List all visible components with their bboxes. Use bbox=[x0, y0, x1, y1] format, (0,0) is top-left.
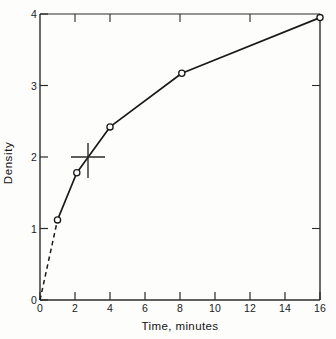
x-tick-label-14: 14 bbox=[279, 302, 291, 314]
x-tick-marks bbox=[40, 292, 320, 300]
y-tick-label-3: 3 bbox=[25, 80, 37, 92]
y-axis-title: Density bbox=[2, 142, 14, 185]
x-tick-label-2: 2 bbox=[72, 302, 78, 314]
x-tick-label-0: 0 bbox=[37, 302, 43, 314]
x-tick-label-10: 10 bbox=[209, 302, 221, 314]
data-point bbox=[179, 70, 185, 76]
x-tick-label-4: 4 bbox=[107, 302, 113, 314]
y-tick-marks-right bbox=[312, 86, 320, 229]
x-tick-label-16: 16 bbox=[314, 302, 326, 314]
y-tick-label-0: 0 bbox=[25, 294, 37, 306]
data-point bbox=[54, 217, 60, 223]
y-tick-label-2: 2 bbox=[25, 151, 37, 163]
x-tick-label-6: 6 bbox=[142, 302, 148, 314]
x-tick-label-12: 12 bbox=[244, 302, 256, 314]
series-density-markers bbox=[54, 15, 323, 224]
data-point bbox=[107, 124, 113, 130]
x-axis-title: Time, minutes bbox=[142, 320, 219, 332]
y-tick-marks bbox=[40, 14, 48, 300]
x-tick-label-8: 8 bbox=[177, 302, 183, 314]
y-tick-label-1: 1 bbox=[25, 223, 37, 235]
series-extrapolated-dashed bbox=[40, 220, 58, 300]
series-density-line bbox=[58, 18, 321, 220]
x-tick-marks-top bbox=[75, 14, 250, 22]
plot-area bbox=[0, 0, 336, 339]
data-point bbox=[317, 15, 323, 21]
chart-figure: 0 2 4 6 8 10 12 14 16 0 1 2 3 4 Time, mi… bbox=[0, 0, 336, 339]
y-tick-label-4: 4 bbox=[25, 8, 37, 20]
data-point bbox=[74, 170, 80, 176]
